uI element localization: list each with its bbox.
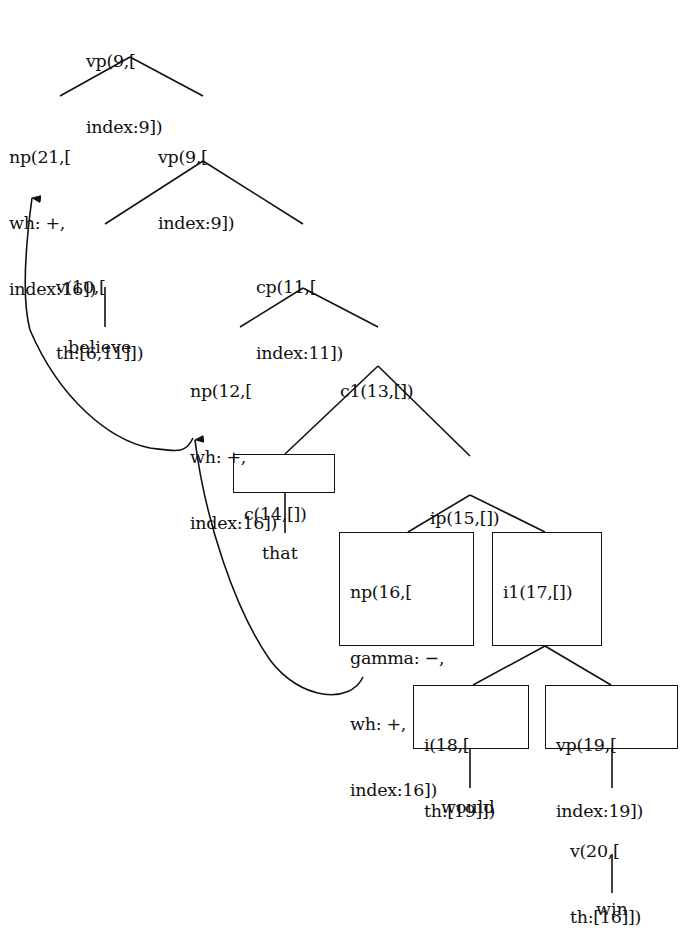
node-label-line: wh: +, bbox=[9, 212, 96, 234]
node-label-line: np(12,[ bbox=[190, 380, 277, 402]
node-vp9-root: vp(9,[ index:9]) bbox=[86, 6, 162, 182]
node-i1-17: i1(17,[]) bbox=[492, 532, 602, 646]
node-label-line: np(16,[ bbox=[350, 581, 463, 603]
node-label-line: c1(13,[]) bbox=[340, 380, 413, 402]
node-label-line: cp(11,[ bbox=[256, 276, 343, 298]
node-label-line: vp(19,[ bbox=[556, 734, 667, 756]
leaf-win: win bbox=[596, 898, 628, 920]
node-vp9: vp(9,[ index:9]) bbox=[158, 102, 234, 278]
node-label-line: index:9]) bbox=[86, 116, 162, 138]
node-label-line: i1(17,[]) bbox=[503, 581, 591, 603]
node-v10: v(10,[ th:[6,11]]) bbox=[56, 232, 143, 408]
node-label-line: vp(9,[ bbox=[86, 50, 162, 72]
node-label-line: i(18,[ bbox=[424, 734, 518, 756]
edge-i1-vp19 bbox=[545, 646, 611, 685]
leaf-believe: believe bbox=[68, 336, 131, 358]
leaf-would: would bbox=[441, 796, 495, 818]
node-label-line: np(21,[ bbox=[9, 146, 96, 168]
node-np16: np(16,[ gamma: −, wh: +, index:16]) bbox=[339, 532, 474, 646]
node-label-line: index:9]) bbox=[158, 212, 234, 234]
node-vp19: vp(19,[ index:19]) bbox=[545, 685, 678, 749]
node-c1-13: c1(13,[]) bbox=[340, 336, 413, 446]
node-label-line: c(14,[]) bbox=[244, 503, 324, 525]
node-label-line: vp(9,[ bbox=[158, 146, 234, 168]
leaf-that: that bbox=[262, 542, 298, 564]
node-label-line: v(10,[ bbox=[56, 276, 143, 298]
edge-i1-i18 bbox=[473, 646, 545, 685]
node-i18: i(18,[ th:[19]]) bbox=[413, 685, 529, 749]
node-label-line: ip(15,[]) bbox=[430, 507, 499, 529]
node-label-line: v(20,[ bbox=[570, 840, 641, 862]
node-label-line: gamma: −, bbox=[350, 647, 463, 669]
node-c14: c(14,[]) bbox=[233, 454, 335, 493]
